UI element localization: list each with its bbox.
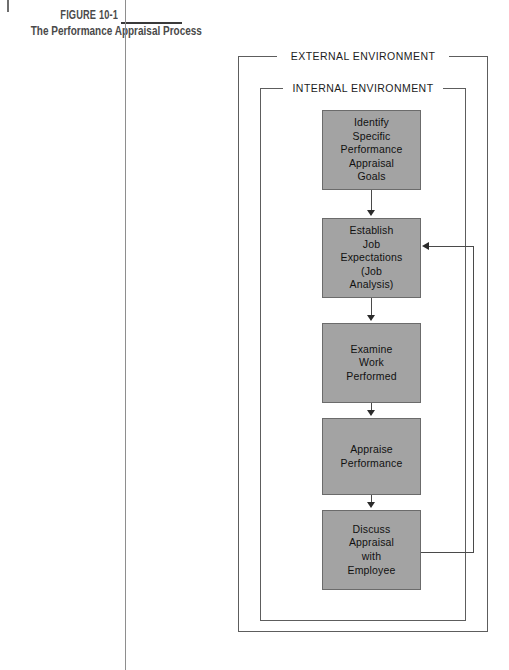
caption-horizontal-rule bbox=[121, 22, 182, 24]
feedback-loop-bottom-segment bbox=[421, 552, 474, 553]
process-box-label: AppraisePerformance bbox=[323, 443, 420, 470]
arrow-down-icon bbox=[367, 210, 375, 216]
arrow-down-icon bbox=[367, 410, 375, 416]
outer-frame-top-right-stub bbox=[449, 56, 487, 57]
process-box-examine-work-performed: ExamineWorkPerformed bbox=[322, 323, 421, 403]
process-box-discuss-appraisal: DiscussAppraisalwithEmployee bbox=[322, 510, 421, 590]
figure-number: FIGURE 10-1 bbox=[31, 8, 118, 22]
outer-frame-top-left-stub bbox=[239, 56, 277, 57]
arrow-down-icon bbox=[367, 502, 375, 508]
internal-environment-label: INTERNAL ENVIRONMENT bbox=[286, 82, 439, 94]
arrow-down-icon bbox=[367, 315, 375, 321]
process-box-appraise-performance: AppraisePerformance bbox=[322, 418, 421, 495]
process-box-label: IdentifySpecificPerformanceAppraisalGoal… bbox=[323, 116, 420, 184]
process-box-identify-goals: IdentifySpecificPerformanceAppraisalGoal… bbox=[322, 110, 421, 190]
figure-title: The Performance Appraisal Process bbox=[31, 23, 118, 38]
feedback-loop-vertical-segment bbox=[473, 246, 474, 553]
feedback-loop-top-segment bbox=[429, 246, 474, 247]
process-box-label: DiscussAppraisalwithEmployee bbox=[323, 523, 420, 577]
page-vertical-rule bbox=[125, 0, 126, 670]
inner-frame-top-right-stub bbox=[443, 88, 465, 89]
connector-line-1 bbox=[371, 190, 372, 212]
process-box-label: EstablishJobExpectations(JobAnalysis) bbox=[323, 224, 420, 292]
inner-frame-top-left-stub bbox=[261, 88, 283, 89]
performance-appraisal-flowchart: EXTERNAL ENVIRONMENT INTERNAL ENVIRONMEN… bbox=[230, 40, 496, 645]
figure-caption: FIGURE 10-1 The Performance Appraisal Pr… bbox=[0, 8, 118, 38]
process-box-label: ExamineWorkPerformed bbox=[323, 343, 420, 384]
process-box-establish-job-expectations: EstablishJobExpectations(JobAnalysis) bbox=[322, 218, 421, 298]
arrow-left-icon bbox=[422, 242, 429, 250]
external-environment-label: EXTERNAL ENVIRONMENT bbox=[285, 50, 442, 62]
